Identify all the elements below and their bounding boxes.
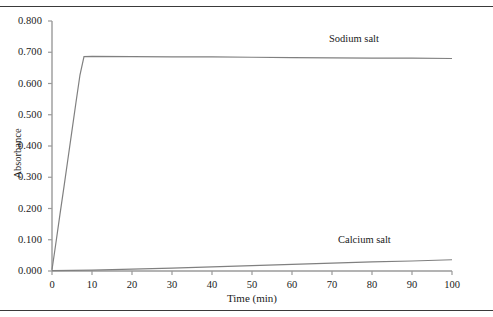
x-axis-tick-label: 50 (232, 280, 272, 291)
series-line-sodium-salt (52, 56, 452, 269)
series-label-calcium-salt: Calcium salt (338, 234, 391, 245)
x-axis-title: Time (min) (172, 292, 332, 304)
y-axis-title: Absorbance (12, 109, 23, 199)
x-axis-tick-label: 30 (152, 280, 192, 291)
y-axis-tick-label: 0.700 (0, 47, 42, 58)
x-axis-tick-label: 40 (192, 280, 232, 291)
series-label-sodium-salt: Sodium salt (329, 33, 379, 44)
x-axis-tick-label: 80 (352, 280, 392, 291)
x-axis-tick-label: 0 (32, 280, 72, 291)
series-line-calcium-salt (52, 260, 452, 271)
y-axis-tick-label: 0.800 (0, 16, 42, 27)
x-axis-tick-label: 10 (72, 280, 112, 291)
x-axis-tick-label: 20 (112, 280, 152, 291)
x-axis-tick-label: 90 (392, 280, 432, 291)
x-axis-tick-label: 100 (432, 280, 472, 291)
line-chart-plot (0, 0, 493, 317)
figure-container: 0.0000.1000.2000.3000.4000.5000.6000.700… (0, 0, 493, 317)
x-axis-tick-label: 70 (312, 280, 352, 291)
x-axis-tick-label: 60 (272, 280, 312, 291)
y-axis-tick-label: 0.100 (0, 235, 42, 246)
y-axis-tick-label: 0.200 (0, 204, 42, 215)
y-axis-tick-label: 0.600 (0, 79, 42, 90)
y-axis-tick-label: 0.000 (0, 266, 42, 277)
